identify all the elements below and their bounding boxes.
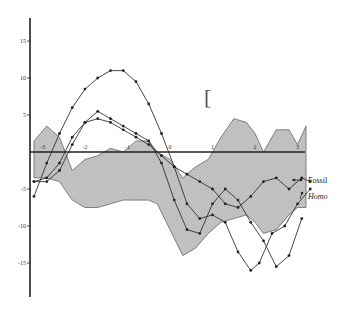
x-tick-label: 1: [211, 144, 214, 150]
data-point: [147, 140, 150, 143]
y-ticks: 15105-5-10-15: [18, 38, 30, 266]
data-point: [249, 195, 252, 198]
bracket-annotation: [: [204, 84, 211, 109]
data-point: [224, 188, 227, 191]
data-point: [198, 232, 201, 235]
data-point: [211, 188, 214, 191]
data-point: [237, 199, 240, 202]
data-point: [186, 173, 189, 176]
data-point: [135, 132, 138, 135]
data-point: [109, 69, 112, 72]
y-tick-label: -15: [18, 260, 26, 266]
data-point: [71, 143, 74, 146]
data-point: [147, 103, 150, 106]
data-point: [45, 162, 48, 165]
data-point: [224, 202, 227, 205]
data-point: [109, 117, 112, 120]
x-tick-label: -3: [40, 144, 45, 150]
legend-homo: Homo: [307, 192, 328, 201]
data-point: [71, 106, 74, 109]
data-point: [262, 239, 265, 242]
data-point: [173, 165, 176, 168]
data-point: [275, 265, 278, 268]
data-point: [309, 188, 312, 191]
data-point: [33, 180, 36, 183]
data-point: [300, 217, 303, 220]
chart: 15105-5-10-15 -3-2-10123 [ Fossil Homo: [0, 0, 344, 311]
data-point: [135, 136, 138, 139]
x-tick-label: 2: [254, 144, 257, 150]
data-point: [258, 262, 261, 265]
y-tick-label: -5: [21, 186, 26, 192]
data-point: [173, 199, 176, 202]
data-point: [84, 121, 87, 124]
x-tick-label: 0: [169, 144, 172, 150]
data-point: [122, 69, 125, 72]
data-point: [135, 80, 138, 83]
y-tick-label: 15: [20, 38, 26, 44]
data-point: [122, 128, 125, 131]
data-point: [160, 162, 163, 165]
data-point: [211, 214, 214, 217]
data-point: [271, 232, 274, 235]
data-point: [211, 202, 214, 205]
x-tick-label: 3: [296, 144, 299, 150]
data-point: [71, 136, 74, 139]
legend-homo-label: Homo: [307, 192, 328, 201]
data-point: [288, 188, 291, 191]
y-tick-label: -10: [18, 223, 26, 229]
data-point: [198, 217, 201, 220]
data-point: [283, 225, 286, 228]
data-point: [58, 162, 61, 165]
legend-fossil-label: Fossil: [308, 176, 328, 185]
data-point: [160, 154, 163, 157]
data-point: [186, 228, 189, 231]
data-point: [237, 251, 240, 254]
data-point: [296, 202, 299, 205]
data-point: [58, 132, 61, 135]
data-point: [96, 77, 99, 80]
data-point: [160, 132, 163, 135]
data-point: [45, 180, 48, 183]
data-point: [198, 180, 201, 183]
data-point: [249, 221, 252, 224]
data-point: [147, 143, 150, 146]
data-point: [58, 169, 61, 172]
data-point: [96, 117, 99, 120]
data-point: [237, 206, 240, 209]
y-tick-label: 5: [23, 112, 26, 118]
data-point: [96, 110, 99, 113]
y-tick-label: 10: [20, 75, 26, 81]
data-point: [45, 177, 48, 180]
data-point: [33, 195, 36, 198]
data-point: [186, 202, 189, 205]
data-point: [262, 180, 265, 183]
data-point: [109, 121, 112, 124]
x-tick-label: -2: [83, 144, 88, 150]
data-point: [275, 177, 278, 180]
data-point: [288, 254, 291, 257]
data-point: [249, 269, 252, 272]
data-point: [224, 221, 227, 224]
data-point: [122, 125, 125, 128]
data-point: [84, 88, 87, 91]
x-tick-label: -1: [125, 144, 130, 150]
